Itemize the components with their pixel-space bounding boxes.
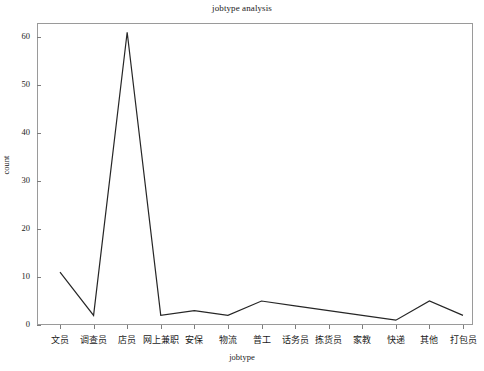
- x-tick-label: 安保: [185, 333, 203, 346]
- x-tick-label: 文员: [51, 333, 69, 346]
- y-tick-mark: [37, 325, 41, 326]
- series-line-count: [60, 32, 463, 320]
- x-tick-label: 打包员: [450, 333, 477, 346]
- x-tick-label: 家教: [353, 333, 371, 346]
- x-tick-mark: [228, 325, 229, 329]
- x-tick-label: 快递: [387, 333, 405, 346]
- x-tick-mark: [94, 325, 95, 329]
- x-tick-mark: [262, 325, 263, 329]
- x-tick-label: 物流: [219, 333, 237, 346]
- x-tick-mark: [194, 325, 195, 329]
- x-tick-mark: [396, 325, 397, 329]
- y-tick-mark: [37, 85, 41, 86]
- line-series-svg: [37, 23, 473, 325]
- x-tick-label: 话务员: [282, 333, 309, 346]
- y-tick-label: 60: [4, 31, 30, 41]
- x-axis-title: jobtype: [0, 352, 484, 362]
- x-tick-label: 网上兼职: [143, 333, 179, 346]
- x-tick-label: 普工: [253, 333, 271, 346]
- y-tick-label: 40: [4, 127, 30, 137]
- x-tick-mark: [429, 325, 430, 329]
- x-tick-mark: [463, 325, 464, 329]
- y-tick-mark: [37, 133, 41, 134]
- y-tick-mark: [37, 277, 41, 278]
- y-tick-label: 50: [4, 79, 30, 89]
- y-tick-mark: [37, 229, 41, 230]
- y-tick-mark: [37, 181, 41, 182]
- x-tick-mark: [362, 325, 363, 329]
- x-tick-mark: [127, 325, 128, 329]
- chart-title: jobtype analysis: [0, 3, 484, 13]
- x-tick-mark: [295, 325, 296, 329]
- y-tick-mark: [37, 37, 41, 38]
- x-tick-mark: [60, 325, 61, 329]
- y-tick-label: 20: [4, 223, 30, 233]
- x-tick-label: 调查员: [80, 333, 107, 346]
- x-tick-label: 拣货员: [315, 333, 342, 346]
- y-tick-label: 0: [4, 319, 30, 329]
- y-tick-label: 30: [4, 175, 30, 185]
- x-tick-label: 店员: [118, 333, 136, 346]
- x-tick-mark: [329, 325, 330, 329]
- y-tick-label: 10: [4, 271, 30, 281]
- chart-figure: jobtype analysis count 0102030405060 文员调…: [0, 0, 484, 371]
- x-tick-mark: [161, 325, 162, 329]
- x-tick-label: 其他: [420, 333, 438, 346]
